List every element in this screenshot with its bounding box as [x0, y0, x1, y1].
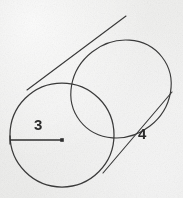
cylinder-far-base-ellipse: [51, 20, 183, 158]
center-point-dot: [60, 138, 64, 142]
radius-dimension-label: 3: [34, 117, 42, 132]
cylinder-upper-side-line: [27, 16, 126, 90]
cylinder-figure: 3 4: [0, 0, 183, 198]
slant-dimension-label: 4: [138, 126, 146, 141]
cylinder-line-drawing: [0, 0, 183, 198]
